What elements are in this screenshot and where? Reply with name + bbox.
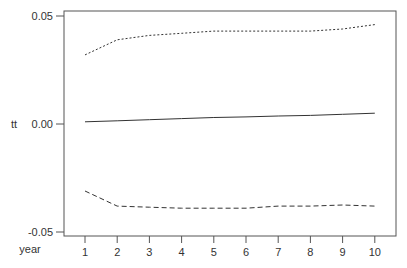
y-tick-label: -0.05 bbox=[28, 226, 53, 238]
y-tick-label: 0.00 bbox=[32, 118, 53, 130]
series-line-solid bbox=[85, 113, 375, 122]
x-tick-label: 10 bbox=[369, 246, 381, 258]
x-tick-label: 9 bbox=[340, 246, 346, 258]
x-axis: 12345678910 bbox=[82, 236, 381, 258]
x-tick-label: 3 bbox=[146, 246, 152, 258]
x-tick-label: 8 bbox=[307, 246, 313, 258]
y-axis-label: tt bbox=[11, 118, 17, 130]
x-tick-label: 2 bbox=[114, 246, 120, 258]
series-group bbox=[85, 25, 375, 209]
x-tick-label: 6 bbox=[243, 246, 249, 258]
x-axis-label: year bbox=[19, 243, 41, 255]
x-tick-label: 1 bbox=[82, 246, 88, 258]
series-line-dashed bbox=[85, 191, 375, 208]
x-tick-label: 4 bbox=[179, 246, 185, 258]
line-chart: 0.050.00-0.05 12345678910 tt year bbox=[0, 0, 407, 268]
x-tick-label: 7 bbox=[275, 246, 281, 258]
y-axis: 0.050.00-0.05 bbox=[28, 10, 64, 238]
y-tick-label: 0.05 bbox=[32, 10, 53, 22]
plot-frame bbox=[64, 11, 396, 236]
series-line-dotted bbox=[85, 25, 375, 55]
x-tick-label: 5 bbox=[211, 246, 217, 258]
